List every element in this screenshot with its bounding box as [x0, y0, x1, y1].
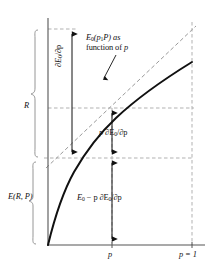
curve-label: E0(p1P) as function of p	[86, 33, 128, 52]
brace-r	[31, 30, 38, 157]
energy-rp-label: E(R, P)	[8, 192, 32, 202]
curve-label-line2: function of p	[86, 43, 128, 52]
derivative-subscript: 0	[57, 55, 63, 58]
partial-e0: ∂E	[105, 128, 114, 137]
derivative-label: ∂E0/∂p	[54, 45, 64, 67]
x-tick-label-p-one: p = 1	[179, 250, 197, 260]
brace-erp	[29, 162, 36, 244]
derivative-e: E	[54, 58, 63, 63]
partial-symbol: ∂	[54, 63, 63, 67]
x-tick-label-p: p	[108, 250, 112, 260]
e0-minus-middle: − p ∂E	[85, 193, 109, 202]
curve-label-line1: E0(p1P) as	[86, 33, 120, 42]
leader-arrow-curve-label	[104, 55, 116, 78]
p-derivative-denominator: /∂p	[117, 128, 127, 137]
figure-container: E0(p1P) as function of p ∂E0/∂p R p ∂E0/…	[0, 0, 218, 273]
p-derivative-label: p ∂E0/∂p	[99, 128, 127, 138]
derivative-denominator: /∂p	[54, 45, 63, 55]
e0-minus-label: E0 − p ∂E0/∂p	[77, 193, 122, 203]
r-label: R	[24, 101, 29, 111]
e0-minus-end: /∂p	[111, 193, 121, 202]
curve-e0	[48, 62, 192, 245]
